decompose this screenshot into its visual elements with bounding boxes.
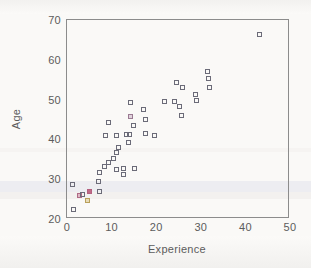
y-tick-label: 40 (48, 133, 61, 145)
data-point (143, 131, 148, 136)
data-point (114, 150, 119, 155)
data-point (102, 164, 107, 169)
data-point (97, 170, 102, 175)
data-point (205, 69, 210, 74)
data-point (207, 85, 212, 90)
data-point (116, 145, 121, 150)
x-tick-label: 50 (284, 221, 297, 233)
x-tick-label: 40 (239, 221, 252, 233)
data-point (97, 189, 102, 194)
y-tick-label: 20 (48, 213, 61, 225)
y-tick-label: 60 (48, 54, 61, 66)
x-axis-label: Experience (148, 243, 206, 255)
x-tick-label: 0 (64, 221, 70, 233)
data-point (114, 133, 119, 138)
x-tick-label: 20 (150, 221, 163, 233)
data-point (121, 172, 126, 177)
data-point (177, 104, 182, 109)
data-point (141, 107, 146, 112)
plot-area: 203040506070 01020304050 (66, 19, 289, 218)
data-point (121, 166, 126, 171)
data-point (128, 100, 133, 105)
data-point (71, 207, 76, 212)
data-point (162, 99, 167, 104)
data-point (103, 133, 108, 138)
data-point (132, 166, 137, 171)
data-point (87, 189, 92, 194)
data-point (180, 85, 185, 90)
data-point (131, 123, 136, 128)
data-point (126, 140, 131, 145)
y-tick-label: 30 (48, 173, 61, 185)
data-point (127, 132, 132, 137)
y-axis-label: Age (10, 109, 22, 129)
data-point (85, 198, 90, 203)
data-point (70, 182, 75, 187)
data-point (179, 113, 184, 118)
data-point (96, 179, 101, 184)
data-point (128, 114, 133, 119)
data-point (174, 80, 179, 85)
data-point (206, 76, 211, 81)
data-point (152, 133, 157, 138)
x-tick-label: 10 (105, 221, 118, 233)
scatter-plot-figure: Age Experience 203040506070 01020304050 (0, 0, 311, 268)
y-tick-label: 70 (48, 14, 61, 26)
scan-artifact-band (0, 0, 311, 14)
y-tick-label: 50 (48, 94, 61, 106)
data-point (111, 156, 116, 161)
x-tick-label: 30 (194, 221, 207, 233)
data-point (114, 167, 119, 172)
data-point (80, 192, 85, 197)
data-point (257, 32, 262, 37)
data-point (143, 117, 148, 122)
data-point (106, 120, 111, 125)
data-point (194, 98, 199, 103)
data-point (193, 92, 198, 97)
